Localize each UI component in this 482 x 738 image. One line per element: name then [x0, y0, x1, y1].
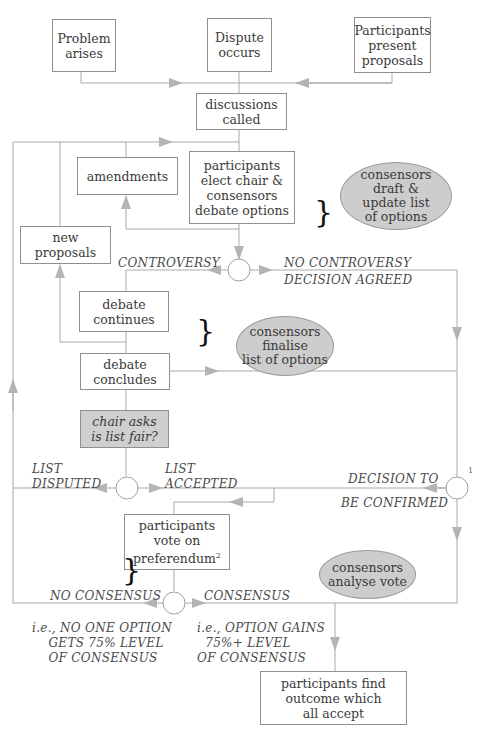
box-debate-continues: debate continues — [79, 291, 169, 332]
footnote-1: 1 — [468, 466, 473, 475]
box-outcome-all-accept: participants find outcome which all acce… — [260, 671, 407, 725]
note-no-consensus: i.e., NO ONE OPTION GETS 75% LEVEL OF CO… — [32, 621, 172, 666]
box-amendments: amendments — [77, 157, 178, 195]
label-list-disputed: LIST DISPUTED — [32, 462, 101, 492]
label-no-controversy: NO CONTROVERSY — [284, 256, 411, 271]
note-consensors-draft: consensors draft & update list of option… — [340, 162, 452, 230]
label-list-accepted: LIST ACCEPTED — [165, 462, 238, 492]
box-elect-chair-consensors: participants elect chair & consensors de… — [189, 151, 295, 224]
label-no-consensus: NO CONSENSUS — [50, 589, 161, 604]
decision-node-consensus — [163, 592, 185, 614]
note-consensors-finalise: consensors finalise list of options — [236, 316, 334, 376]
label-decision-agreed: DECISION AGREED — [284, 273, 412, 288]
brace-3: } — [122, 555, 141, 585]
decision-node-confirm — [446, 477, 468, 499]
label-controversy: CONTROVERSY — [118, 256, 220, 271]
label-decision-to: DECISION TO — [348, 472, 439, 487]
box-dispute-occurs: Dispute occurs — [207, 18, 272, 72]
box-discussions-called: discussions called — [196, 93, 287, 130]
vote-box-text: participants vote on preferendum2 — [133, 518, 221, 566]
box-participants-present-proposals: Participants present proposals — [354, 17, 431, 73]
decision-node-list — [116, 477, 138, 499]
label-be-confirmed: BE CONFIRMED — [341, 496, 448, 511]
decision-node-controversy — [228, 259, 250, 281]
consensus-flowchart: Problem arises Dispute occurs Participan… — [0, 0, 482, 738]
brace-2: } — [196, 316, 215, 346]
footnote-2: 2 — [216, 551, 221, 560]
brace-1: } — [314, 197, 333, 227]
box-problem-arises: Problem arises — [52, 19, 116, 72]
label-consensus: CONSENSUS — [204, 589, 290, 604]
box-debate-concludes: debate concludes — [80, 353, 170, 390]
note-consensus: i.e., OPTION GAINS 75%+ LEVEL OF CONSENS… — [197, 621, 325, 666]
box-chair-asks-list-fair: chair asks is list fair? — [80, 410, 169, 448]
box-new-proposals: new proposals — [20, 226, 111, 264]
note-consensors-analyse: consensors analyse vote — [319, 550, 416, 599]
